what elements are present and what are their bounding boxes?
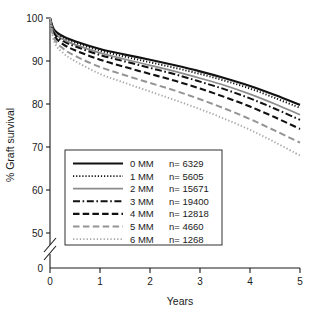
legend-series-count: n= 19400 xyxy=(169,196,209,207)
chart-legend: 0 MMn= 63291 MMn= 56052 MMn= 156713 MMn=… xyxy=(65,150,222,245)
legend-series-count: n= 4660 xyxy=(169,221,204,232)
graft-survival-figure: % Graft survival Years 50607080901000012… xyxy=(0,0,315,317)
legend-series-count: n= 1268 xyxy=(169,234,204,245)
legend-series-count: n= 5605 xyxy=(169,171,204,182)
y-tick-label: 50 xyxy=(32,228,44,239)
y-tick-label: 60 xyxy=(32,185,44,196)
curve-1-mm xyxy=(50,18,300,108)
curve-6-mm xyxy=(50,18,300,156)
x-tick-label: 1 xyxy=(97,276,103,287)
y-tick-label: 80 xyxy=(32,99,44,110)
curve-3-mm xyxy=(50,18,300,120)
legend-series-count: n= 15671 xyxy=(169,183,209,194)
x-tick-label: 2 xyxy=(147,276,153,287)
legend-series-label: 3 MM xyxy=(130,196,154,207)
survival-chart: % Graft survival Years 50607080901000012… xyxy=(0,0,315,317)
legend-series-label: 5 MM xyxy=(130,221,154,232)
legend-series-count: n= 6329 xyxy=(169,158,204,169)
legend-series-label: 2 MM xyxy=(130,183,154,194)
x-tick-label: 0 xyxy=(47,276,53,287)
legend-series-label: 0 MM xyxy=(130,158,154,169)
x-tick-label: 5 xyxy=(297,276,303,287)
x-tick-label: 4 xyxy=(247,276,253,287)
y-axis-label: % Graft survival xyxy=(4,108,16,182)
x-axis-label: Years xyxy=(167,295,193,307)
y-tick-label: 90 xyxy=(32,56,44,67)
y-tick-label: 100 xyxy=(26,13,43,24)
legend-series-count: n= 12818 xyxy=(169,208,209,219)
y-tick-label-zero: 0 xyxy=(37,263,43,274)
legend-series-label: 6 MM xyxy=(130,234,154,245)
legend-series-label: 4 MM xyxy=(130,208,154,219)
x-tick-label: 3 xyxy=(197,276,203,287)
curve-series-group xyxy=(50,18,300,156)
legend-series-label: 1 MM xyxy=(130,171,154,182)
y-tick-label: 70 xyxy=(32,142,44,153)
